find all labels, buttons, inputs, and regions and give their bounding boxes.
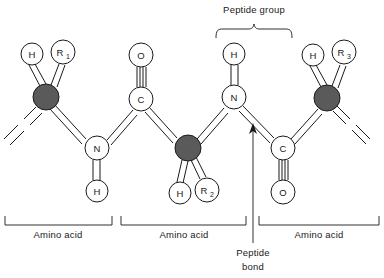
bond-c1-o1-double [137, 67, 146, 87]
bond-n1-c1 [107, 110, 137, 145]
bond-ca2-n2 [197, 108, 228, 144]
amino-acid-bracket-1 [5, 216, 112, 225]
bond-c2-ca3 [291, 109, 322, 144]
atom-label-r1: R [57, 47, 64, 58]
bond-ca1-h1 [29, 64, 46, 86]
atom-label-c1: C [138, 94, 145, 105]
atom-alpha-carbon-1 [33, 84, 59, 110]
atom-label-h2: H [94, 186, 101, 197]
atom-alpha-carbon-3 [314, 85, 340, 111]
bond-chain-continuation-right [333, 106, 370, 144]
atom-sub-r3: 3 [347, 53, 351, 60]
bond-ca3-h5 [310, 65, 327, 87]
amino-acid-label-1: Amino acid [34, 229, 83, 240]
bond-n2-h4 [231, 65, 238, 85]
bond-c2-o2-double [279, 160, 288, 180]
atom-label-h3: H [177, 188, 184, 199]
bond-ca1-n1 [50, 104, 86, 144]
amino-acid-bracket-2 [121, 216, 246, 225]
atom-label-r2: R [201, 185, 208, 196]
atom-label-h5: H [310, 50, 317, 61]
amino-acid-label-3: Amino acid [295, 229, 344, 240]
atom-label-o2: O [279, 187, 286, 198]
atom-alpha-carbon-2 [175, 135, 201, 161]
atom-label-c2: C [280, 143, 287, 154]
atom-label-h4: H [231, 49, 238, 60]
peptide-bond-label-line2: bond [242, 261, 264, 272]
bond-n1-h2 [93, 160, 100, 180]
amino-acid-label-2: Amino acid [160, 229, 209, 240]
atom-label-n1: N [94, 143, 101, 154]
atom-sub-r2: 2 [210, 191, 214, 198]
atom-label-n2: N [231, 92, 238, 103]
atom-label-h1: H [29, 49, 36, 60]
bond-ca3-r3 [332, 65, 346, 88]
peptide-structure-diagram: H R 1 N H C O H R 2 [0, 0, 384, 278]
bond-n2-c2-peptide [239, 106, 274, 143]
bond-c1-ca2 [145, 107, 177, 143]
bond-ca2-h3 [177, 160, 188, 183]
peptide-bond-label-line1: Peptide [236, 247, 270, 258]
peptide-group-label: Peptide group [223, 4, 285, 15]
bond-chain-continuation-left [4, 107, 42, 145]
atom-label-r3: R [338, 47, 345, 58]
atom-label-o1: O [137, 50, 144, 61]
amino-acid-bracket-3 [259, 216, 379, 225]
bond-ca1-r1 [51, 64, 65, 87]
atom-sub-r1: 1 [66, 53, 70, 60]
bond-layer [4, 64, 370, 183]
peptide-group-brace [216, 24, 292, 38]
